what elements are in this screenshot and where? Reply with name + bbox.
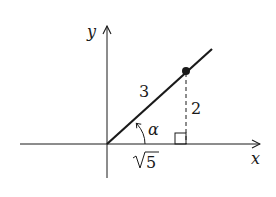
right-angle-marker	[175, 133, 186, 144]
adjacent-label: 5	[133, 152, 159, 172]
hypotenuse-label: 3	[139, 82, 149, 101]
y-axis-label: y	[86, 22, 97, 41]
angle-arc	[137, 124, 145, 144]
adjacent-label-value: 5	[146, 153, 156, 172]
angle-label: α	[148, 120, 159, 139]
x-axis-label: x	[251, 149, 260, 168]
trig-diagram: y x 3 2 α 5	[0, 0, 276, 197]
terminal-ray	[107, 49, 212, 144]
point-marker	[182, 67, 190, 75]
opposite-label: 2	[191, 99, 201, 118]
